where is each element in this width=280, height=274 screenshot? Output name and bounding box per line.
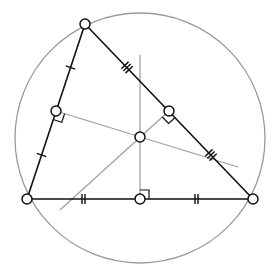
right-angle-markers (53, 114, 175, 199)
right-angle-marker (162, 117, 175, 123)
circumcenter-point (135, 132, 145, 142)
vertex-point-bottom-left (22, 194, 32, 204)
circumcenter-diagram (0, 0, 280, 274)
bisector-right (60, 111, 169, 210)
midpoint-right-side (164, 106, 174, 116)
midpoint-bottom-side (135, 194, 145, 204)
perpendicular-bisectors (56, 55, 238, 210)
vertex-point-top (80, 19, 90, 29)
vertex-point-bottom-right (248, 194, 258, 204)
midpoint-left-side (51, 106, 61, 116)
